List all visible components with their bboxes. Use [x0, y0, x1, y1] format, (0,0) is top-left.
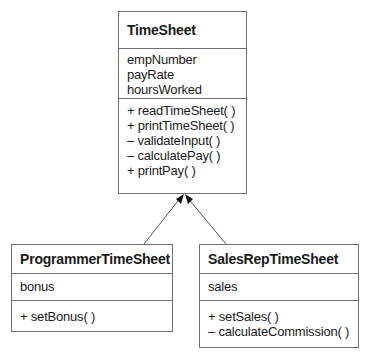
operation: + printTimeSheet( )	[127, 118, 246, 133]
class-programmer-timesheet: ProgrammerTimeSheet bonus + setBonus( )	[11, 244, 173, 332]
attribute: bonus	[20, 279, 172, 294]
operations-section: + setBonus( )	[12, 301, 172, 324]
operation: – calculateCommission( )	[208, 324, 358, 339]
attribute: sales	[208, 279, 358, 294]
attributes-section: sales	[200, 274, 358, 301]
class-name: SalesRepTimeSheet	[208, 251, 338, 267]
class-name: TimeSheet	[127, 22, 196, 38]
attribute: empNumber	[127, 52, 246, 67]
class-salesrep-timesheet: SalesRepTimeSheet sales + setSales( ) – …	[199, 244, 359, 348]
operation: + setSales( )	[208, 309, 358, 324]
operation: – validateInput( )	[127, 133, 246, 148]
class-timesheet: TimeSheet empNumber payRate hoursWorked …	[118, 11, 247, 194]
attributes-section: bonus	[12, 274, 172, 301]
class-title: TimeSheet	[119, 12, 246, 49]
class-title: SalesRepTimeSheet	[200, 245, 358, 274]
class-title: ProgrammerTimeSheet	[12, 245, 172, 274]
inheritance-line-programmer	[144, 197, 181, 244]
class-name: ProgrammerTimeSheet	[20, 251, 170, 267]
attribute: payRate	[127, 67, 246, 82]
operation: + setBonus( )	[20, 309, 172, 324]
inheritance-line-salesrep	[187, 197, 226, 244]
operation: + printPay( )	[127, 163, 246, 178]
attributes-section: empNumber payRate hoursWorked	[119, 49, 246, 99]
operation: – calculatePay( )	[127, 148, 246, 163]
operations-section: + readTimeSheet( ) + printTimeSheet( ) –…	[119, 99, 246, 178]
operation: + readTimeSheet( )	[127, 103, 246, 118]
attribute: hoursWorked	[127, 82, 246, 97]
operations-section: + setSales( ) – calculateCommission( )	[200, 301, 358, 339]
